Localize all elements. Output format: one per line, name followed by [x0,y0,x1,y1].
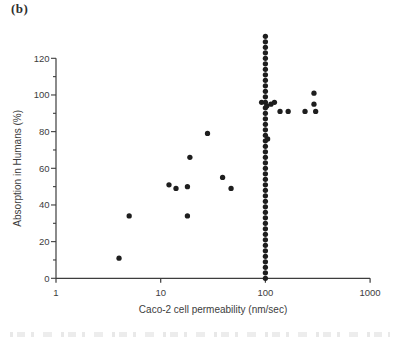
column-data-point [263,155,268,160]
data-point [259,100,264,105]
column-data-point [263,149,268,154]
column-data-point [263,177,268,182]
data-point [311,90,316,95]
data-point [173,186,178,191]
y-tick-label: 40 [39,199,50,210]
data-point [277,109,282,114]
column-data-point [263,226,268,231]
figure-panel-b: (b) 1101001000020406080100120Caco-2 cell… [0,0,396,338]
y-tick-label: 100 [34,89,50,100]
column-data-point [263,259,268,264]
column-data-point [263,254,268,259]
y-tick-label: 60 [39,163,50,174]
column-data-point [263,232,268,237]
column-data-point [263,215,268,220]
data-point [205,131,210,136]
column-data-point [263,171,268,176]
y-axis-title: Absorption in Humans (%) [12,110,23,227]
data-point [185,184,190,189]
column-data-point [263,122,268,127]
scatter-plot: 1101001000020406080100120Caco-2 cell per… [0,0,396,338]
column-data-point [263,265,268,270]
data-point [187,155,192,160]
cropped-caption-remnant [10,332,390,337]
column-data-point [263,39,268,44]
column-data-point [263,243,268,248]
data-point [286,109,291,114]
x-tick-label: 1 [53,287,58,298]
data-point [302,109,307,114]
column-data-point [263,270,268,275]
column-data-point [263,34,268,39]
column-data-point [263,67,268,72]
column-data-point [263,94,268,99]
column-data-point [263,193,268,198]
column-data-point [263,78,268,83]
x-axis-title: Caco-2 cell permeability (nm/sec) [139,304,287,315]
data-point [116,255,121,260]
data-point [313,109,318,114]
x-tick-label: 10 [155,287,166,298]
column-data-point [263,188,268,193]
data-point [185,213,190,218]
column-data-point [263,61,268,66]
column-data-point [263,111,268,116]
y-tick-label: 0 [44,273,49,284]
data-point [265,136,270,141]
column-data-point [263,83,268,88]
column-data-point [263,166,268,171]
column-data-point [263,50,268,55]
column-data-point [263,199,268,204]
y-tick-label: 80 [39,126,50,137]
column-data-point [263,182,268,187]
data-point [166,182,171,187]
data-point [311,101,316,106]
column-data-point [263,204,268,209]
column-data-point [263,127,268,132]
column-data-point [263,221,268,226]
column-data-point [263,248,268,253]
y-tick-label: 20 [39,236,50,247]
column-data-point [263,89,268,94]
column-data-point [263,45,268,50]
column-data-point [263,276,268,281]
x-tick-label: 100 [257,287,273,298]
data-point [220,175,225,180]
y-tick-label: 120 [34,53,50,64]
column-data-point [263,116,268,121]
column-data-point [263,72,268,77]
column-data-point [263,144,268,149]
column-data-point [263,56,268,61]
data-point [127,213,132,218]
x-tick-label: 1000 [360,287,381,298]
column-data-point [263,210,268,215]
data-point [228,186,233,191]
data-point [272,100,277,105]
column-data-point [263,237,268,242]
column-data-point [263,160,268,165]
